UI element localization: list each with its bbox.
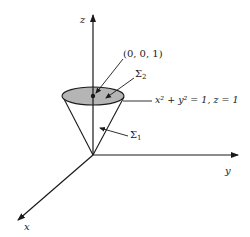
x-axis bbox=[18, 155, 93, 220]
cone-side-left bbox=[63, 97, 93, 155]
point-marker bbox=[91, 94, 95, 98]
sigma2-subscript: 2 bbox=[142, 73, 146, 81]
cone-diagram bbox=[0, 0, 250, 237]
sigma2-label: Σ2 bbox=[135, 69, 147, 81]
y-axis-label: y bbox=[225, 166, 231, 176]
sigma1-subscript: 1 bbox=[137, 134, 141, 142]
x-axis-label: x bbox=[24, 222, 30, 232]
boundary-equation: x² + y² = 1, z = 1 bbox=[155, 95, 238, 105]
z-axis-label: z bbox=[80, 15, 85, 25]
sigma1-label: Σ1 bbox=[130, 130, 142, 142]
cone-side-right bbox=[93, 97, 124, 155]
point-label: (0, 0, 1) bbox=[123, 49, 163, 59]
